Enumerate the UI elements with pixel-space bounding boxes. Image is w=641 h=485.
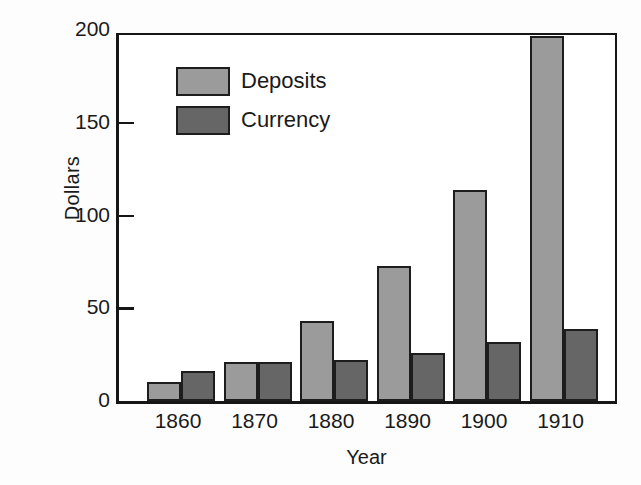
bar-deposits-1870[interactable]: [224, 362, 258, 401]
y-tick-label: 0: [98, 387, 110, 413]
bar-currency-1860[interactable]: [181, 371, 215, 401]
bar-currency-1910[interactable]: [564, 329, 598, 401]
chart-legend: DepositsCurrency: [176, 66, 330, 144]
bar-group: [530, 35, 598, 401]
bar-currency-1880[interactable]: [334, 360, 368, 401]
bar-deposits-1900[interactable]: [453, 190, 487, 401]
bar-currency-1900[interactable]: [487, 342, 521, 401]
legend-item-currency[interactable]: Currency: [176, 105, 330, 135]
legend-item-deposits[interactable]: Deposits: [176, 66, 330, 96]
bar-chart-figure: Dollars 050100150200 1860187018801890190…: [0, 0, 641, 485]
bar-group: [453, 35, 521, 401]
legend-swatch-deposits: [176, 67, 230, 96]
bar-deposits-1890[interactable]: [377, 266, 411, 401]
y-tick-label: 200: [75, 16, 110, 42]
legend-label: Currency: [241, 107, 330, 133]
y-axis-title: Dollars: [61, 113, 101, 263]
y-tick-label: 100: [75, 202, 110, 228]
x-tick-label: 1910: [516, 408, 606, 434]
bar-deposits-1910[interactable]: [530, 36, 564, 401]
legend-label: Deposits: [241, 68, 327, 94]
legend-swatch-currency: [176, 106, 230, 135]
bar-group: [377, 35, 445, 401]
bar-currency-1890[interactable]: [411, 353, 445, 401]
y-tick-label: 150: [75, 109, 110, 135]
bar-deposits-1880[interactable]: [300, 321, 334, 401]
bar-deposits-1860[interactable]: [147, 382, 181, 401]
y-tick-label: 50: [87, 294, 110, 320]
x-axis-title: Year: [116, 446, 617, 469]
bar-currency-1870[interactable]: [258, 362, 292, 401]
